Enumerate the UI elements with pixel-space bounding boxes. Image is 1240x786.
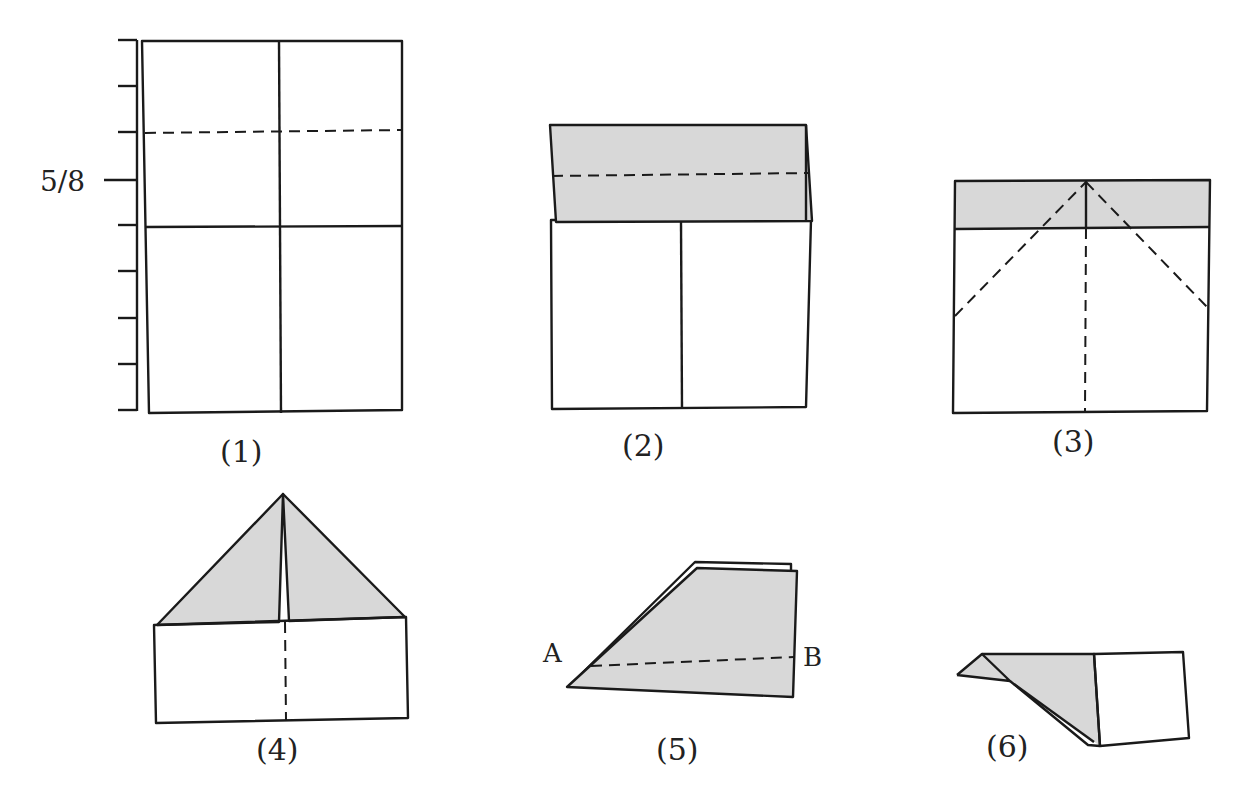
step-3-panel: (3) <box>953 180 1210 459</box>
step-5-panel: A B (5) <box>542 562 822 767</box>
step-label-3: (3) <box>1052 424 1095 459</box>
step-4-panel: (4) <box>154 494 408 767</box>
point-B-label: B <box>803 642 822 672</box>
step-label-4: (4) <box>256 732 299 767</box>
step-label-1: (1) <box>220 434 263 469</box>
ruler-label: 5/8 <box>40 165 85 198</box>
folded-body <box>567 568 797 697</box>
half-crease <box>146 226 402 227</box>
center-crease <box>681 222 682 409</box>
step-6-panel: (6) <box>957 652 1189 764</box>
shaded-strip <box>955 181 1210 228</box>
body-side <box>1094 652 1189 746</box>
center-fold-dashed <box>1085 228 1086 412</box>
step-label-2: (2) <box>622 428 665 463</box>
paper-body <box>154 617 408 723</box>
ruler <box>104 40 137 411</box>
step-label-6: (6) <box>986 729 1029 764</box>
folding-diagram: 5/8 (1) (2) (3) (4) <box>0 0 1240 786</box>
step-label-5: (5) <box>656 732 699 767</box>
center-fold-dashed <box>285 622 286 720</box>
step-2-panel: (2) <box>550 125 812 463</box>
step-1-panel: 5/8 (1) <box>40 40 402 469</box>
fold-line-dashed <box>145 130 402 133</box>
point-A-label: A <box>542 638 563 668</box>
